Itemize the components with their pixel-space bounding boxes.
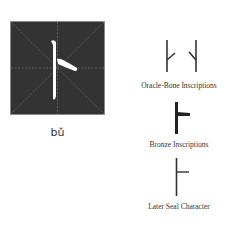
oracle-bone-glyph	[160, 38, 205, 74]
seal-label: Later Seal Character	[120, 202, 238, 211]
character-grid-box	[11, 22, 104, 114]
bronze-glyph	[168, 100, 194, 136]
seal-glyph	[168, 156, 194, 198]
pinyin-label: bǔ	[11, 126, 104, 139]
oracle-bone-label: Oracle-Bone Inscriptions	[120, 81, 238, 90]
bronze-label: Bronze Inscriptions	[120, 140, 238, 149]
character-glyph	[11, 22, 104, 114]
